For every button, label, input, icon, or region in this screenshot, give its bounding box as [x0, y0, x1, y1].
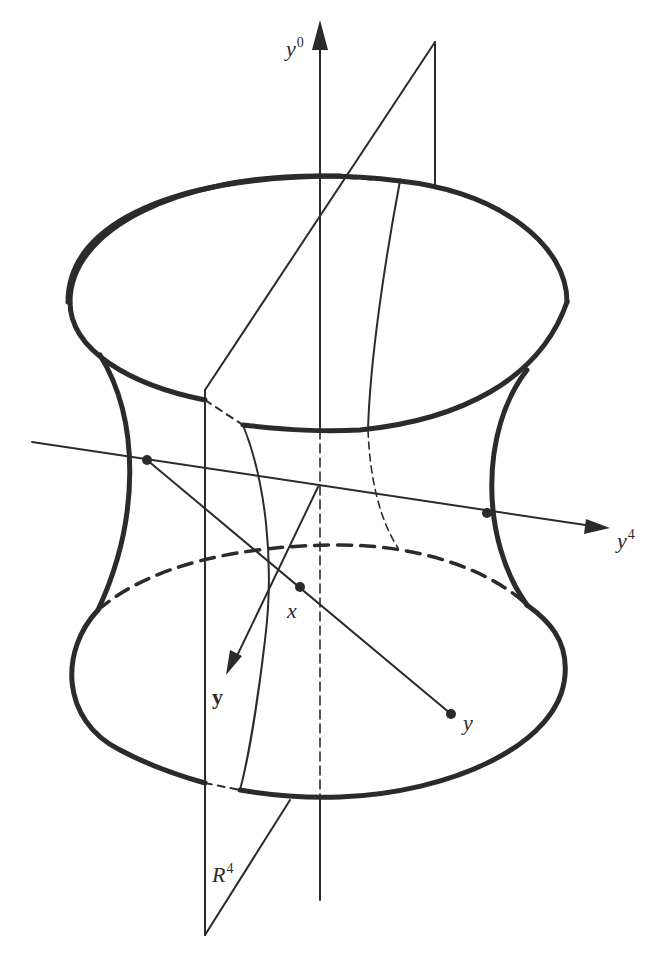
point-x — [295, 582, 305, 592]
point-left-intersection — [142, 455, 152, 465]
y4-label-sup: 4 — [628, 527, 635, 542]
lower-ellipse — [72, 545, 566, 797]
y4-axis — [32, 442, 610, 534]
plane-r4-label: R4 — [212, 862, 233, 886]
y-vector-arrowhead-icon — [226, 650, 242, 675]
upper-ellipse — [68, 176, 567, 431]
y-vector-axis — [226, 487, 318, 675]
point-x-label: x — [287, 600, 297, 622]
point-y-label: y — [463, 712, 473, 734]
point-right-intersection — [482, 508, 492, 518]
r4-label-sup: 4 — [226, 861, 233, 876]
r4-label-base: R — [212, 862, 225, 887]
y0-axis-label: y0 — [286, 36, 304, 60]
diagram-canvas — [0, 0, 671, 959]
y4-axis-label: y4 — [617, 528, 635, 552]
y4-label-base: y — [617, 528, 627, 553]
y4-arrowhead-icon — [584, 519, 610, 534]
point-y — [446, 709, 456, 719]
y-vector-label: y — [212, 686, 223, 708]
y0-label-base: y — [286, 36, 296, 61]
hyperboloid-figure: y0 y4 y x y R4 — [0, 0, 671, 959]
y0-axis — [312, 20, 328, 900]
y0-arrowhead-icon — [312, 20, 328, 50]
y0-label-sup: 0 — [297, 35, 304, 50]
